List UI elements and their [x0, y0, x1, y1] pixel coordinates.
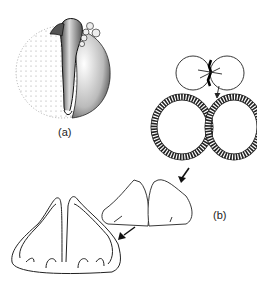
panel-b-label: (b)	[213, 209, 226, 221]
panel-b-stage-3	[102, 180, 192, 226]
bump	[79, 41, 84, 46]
bump	[92, 29, 100, 37]
diagram-canvas	[0, 0, 257, 282]
bump	[83, 29, 89, 35]
arrow-stage-3	[178, 168, 189, 183]
panel-b-stage-2	[154, 97, 257, 157]
bump	[87, 23, 94, 30]
head-fold	[50, 23, 64, 36]
panel-b-stage-1	[176, 56, 244, 98]
bump	[81, 35, 87, 41]
panel-a-embryo	[16, 19, 110, 118]
panel-b-stage-4	[12, 197, 121, 274]
panel-a-label: (a)	[58, 126, 71, 138]
arrow-stage-4	[118, 227, 135, 240]
